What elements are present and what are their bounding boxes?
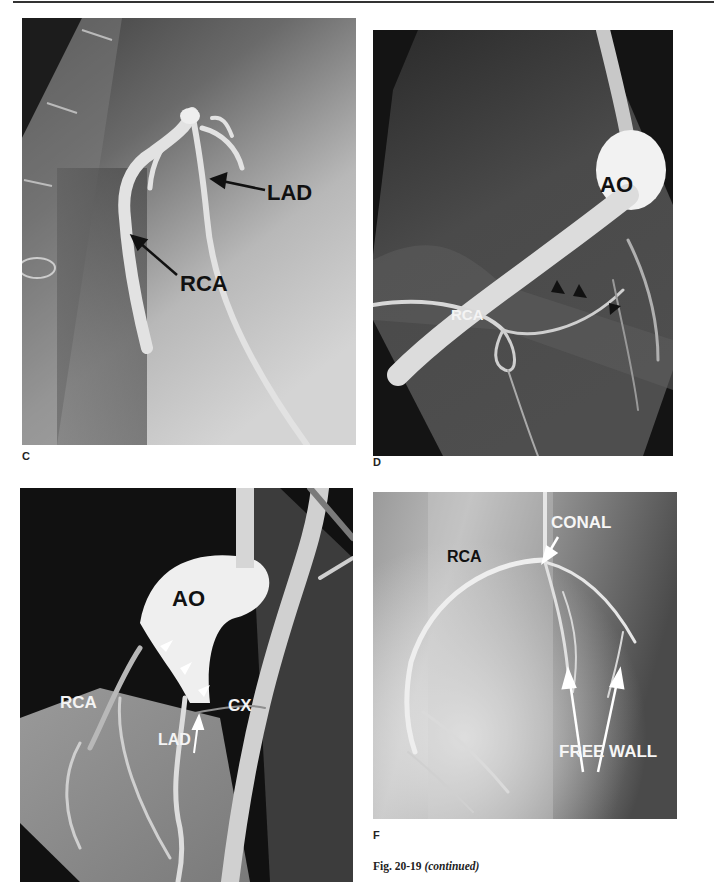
panel-letter-c: C: [22, 450, 30, 462]
caption-number: Fig. 20-19: [373, 860, 422, 872]
angiogram-image-e: AO RCA CX LAD: [20, 488, 353, 882]
angiogram-image-d: AO RCA: [373, 30, 673, 456]
angiogram-panel-e: AO RCA CX LAD: [20, 488, 353, 882]
angiogram-panel-f: CONAL RCA FREE WALL: [373, 492, 677, 819]
label-ao: AO: [172, 586, 205, 611]
angiogram-panel-d: AO RCA: [373, 30, 673, 456]
panel-letter-d: D: [373, 456, 381, 468]
angiogram-panel-c: LAD RCA: [22, 18, 356, 445]
angiogram-image-c: LAD RCA: [22, 18, 356, 445]
label-rca: RCA: [451, 306, 484, 323]
label-lad: LAD: [158, 731, 191, 748]
panel-letter-f: F: [373, 829, 380, 841]
label-rca: RCA: [447, 548, 482, 565]
label-rca: RCA: [180, 271, 228, 296]
angiogram-image-f: CONAL RCA FREE WALL: [373, 492, 677, 819]
label-free-wall: FREE WALL: [559, 742, 657, 761]
label-conal: CONAL: [551, 513, 611, 532]
label-ao: AO: [600, 172, 633, 197]
label-rca: RCA: [60, 693, 97, 712]
figure-caption: Fig. 20-19 (continued): [373, 860, 479, 872]
label-lad: LAD: [267, 180, 312, 205]
caption-continued: (continued): [424, 860, 479, 872]
page-top-rule: [13, 1, 714, 3]
label-cx: CX: [228, 696, 252, 715]
